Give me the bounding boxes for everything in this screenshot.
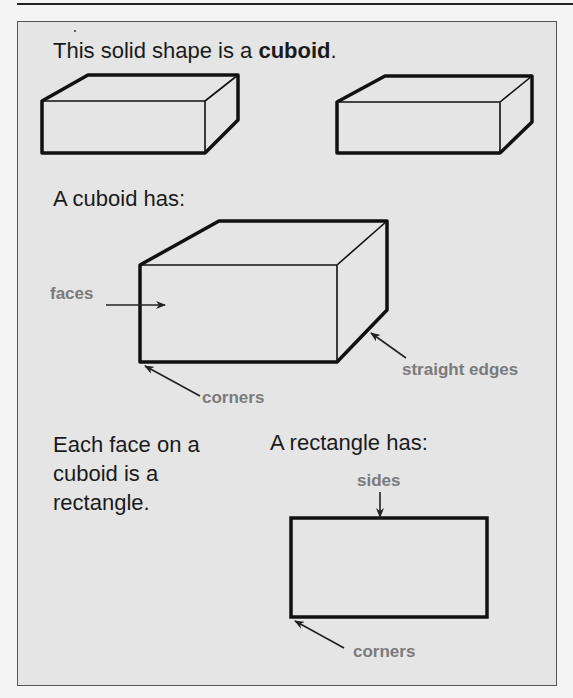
rectangle-shape xyxy=(291,518,487,617)
rectangle-corners-label: corners xyxy=(353,642,415,662)
cuboid-corners-label: corners xyxy=(202,388,264,408)
illustrations xyxy=(0,0,573,698)
cuboid-section-title: A cuboid has: xyxy=(53,184,185,213)
faces-label: faces xyxy=(50,284,93,304)
face-note-line-3: rectangle. xyxy=(53,488,150,517)
cuboid-small-right xyxy=(337,76,532,153)
cuboid-large xyxy=(140,221,387,362)
face-note-line-1: Each face on a xyxy=(53,430,200,459)
rectangle-section-title: A rectangle has: xyxy=(270,428,428,457)
sides-label: sides xyxy=(357,471,400,491)
cuboid-corners-arrow xyxy=(145,366,200,396)
straight-edges-label: straight edges xyxy=(402,360,518,380)
cuboid-small-left xyxy=(42,75,238,153)
rectangle-corners-arrow xyxy=(295,621,344,648)
edges-arrow xyxy=(371,333,406,358)
face-note-line-2: cuboid is a xyxy=(53,459,158,488)
